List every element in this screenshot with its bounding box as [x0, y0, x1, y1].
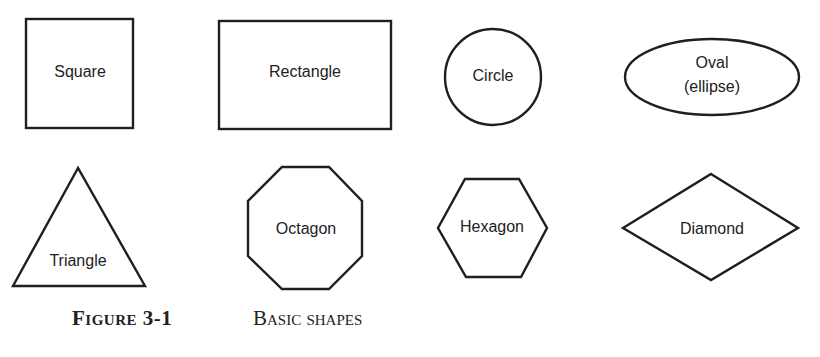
circle-shape: Circle	[445, 29, 541, 125]
diamond-shape: Diamond	[623, 174, 798, 280]
square-label: Square	[54, 63, 106, 80]
oval-shape: Oval (ellipse)	[625, 39, 799, 115]
rectangle-shape: Rectangle	[219, 21, 391, 129]
hexagon-label: Hexagon	[460, 218, 524, 235]
octagon-label: Octagon	[276, 220, 336, 237]
triangle-label: Triangle	[49, 252, 106, 269]
square-shape: Square	[26, 19, 133, 128]
oval-label-line2: (ellipse)	[684, 78, 740, 95]
basic-shapes-diagram: Square Rectangle Circle Oval (ellipse) T…	[0, 0, 820, 357]
triangle-shape: Triangle	[13, 168, 145, 286]
rectangle-label: Rectangle	[269, 63, 341, 80]
circle-label: Circle	[473, 67, 514, 84]
octagon-shape: Octagon	[248, 167, 362, 289]
diamond-label: Diamond	[680, 220, 744, 237]
hexagon-shape: Hexagon	[438, 179, 547, 277]
oval-label-line1: Oval	[696, 54, 729, 71]
figure-title: Basic shapes	[253, 306, 362, 331]
figure-number: Figure 3-1	[72, 306, 172, 331]
